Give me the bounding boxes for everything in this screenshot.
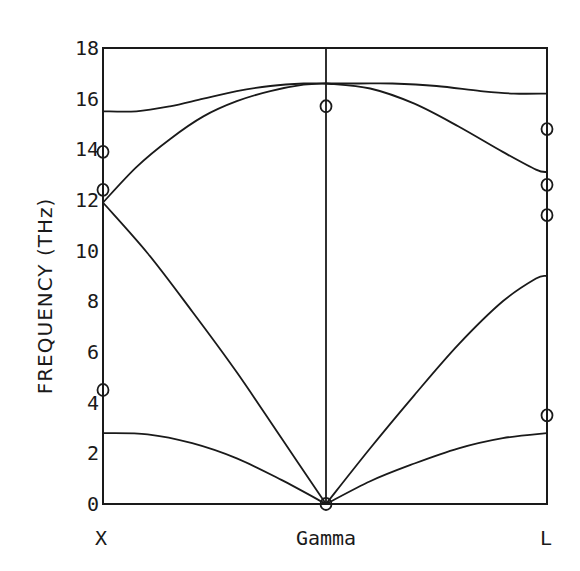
y-tick-label: 4 (87, 391, 99, 415)
dispersion-branches (103, 83, 547, 504)
x-label-gamma: Gamma (296, 526, 356, 550)
y-tick-label: 2 (87, 441, 99, 465)
dispersion-branch (326, 276, 547, 504)
dispersion-branch (103, 203, 326, 505)
y-tick-label: 6 (87, 340, 99, 364)
y-tick-label: 0 (87, 492, 99, 516)
dispersion-branch (326, 433, 547, 504)
experimental-points (98, 100, 553, 510)
y-tick-label: 8 (87, 289, 99, 313)
y-tick-label: 12 (75, 188, 99, 212)
y-tick-label: 16 (75, 87, 99, 111)
phonon-dispersion-chart: 024681012141618 FREQUENCY (THz) X Gamma … (0, 0, 580, 571)
dispersion-branch (103, 83, 326, 111)
y-axis-title: FREQUENCY (THz) (33, 198, 57, 395)
y-tick-label: 14 (75, 137, 99, 161)
plot-frame (103, 48, 547, 504)
y-tick-label: 18 (75, 36, 99, 60)
dispersion-branch (103, 433, 326, 504)
y-tick-labels: 024681012141618 (75, 36, 99, 516)
dispersion-branch (326, 84, 547, 173)
dispersion-branch (326, 83, 547, 94)
dispersion-branch (103, 84, 326, 203)
y-tick-label: 10 (75, 239, 99, 263)
x-label-X: X (95, 526, 107, 550)
x-label-L: L (540, 526, 552, 550)
